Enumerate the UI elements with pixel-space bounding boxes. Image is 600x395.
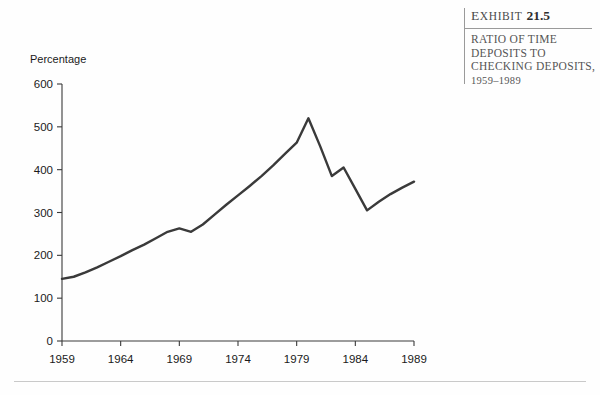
exhibit-title: RATIO OF TIME DEPOSITS TO CHECKING DEPOS… bbox=[471, 33, 595, 87]
y-axis-tick-label: 100 bbox=[34, 292, 53, 304]
x-axis-tick-label: 1959 bbox=[49, 353, 75, 365]
x-axis-tick-label: 1979 bbox=[284, 353, 310, 365]
y-axis-tick-label: 200 bbox=[34, 249, 53, 261]
x-axis-tick-label: 1969 bbox=[167, 353, 193, 365]
page-canvas: EXHIBIT21.5 RATIO OF TIME DEPOSITS TO CH… bbox=[0, 0, 600, 395]
exhibit-label-initial: E bbox=[471, 8, 480, 23]
y-axis-tick-label: 600 bbox=[34, 78, 53, 90]
x-axis-tick-label: 1964 bbox=[108, 353, 134, 365]
x-axis-tick-label: 1989 bbox=[401, 353, 427, 365]
chart-area: 0100200300400500600 19591964196919741979… bbox=[0, 0, 460, 380]
exhibit-number: 21.5 bbox=[526, 8, 550, 23]
exhibit-title-years: 1959–1989 bbox=[471, 74, 595, 88]
y-axis-tick-label: 500 bbox=[34, 121, 53, 133]
exhibit-title-line-2: DEPOSITS TO bbox=[471, 47, 595, 61]
x-axis-tick-label: 1974 bbox=[225, 353, 251, 365]
line-chart: 0100200300400500600 19591964196919741979… bbox=[0, 0, 460, 380]
y-axis-label: Percentage bbox=[30, 53, 86, 65]
exhibit-horizontal-rule bbox=[464, 28, 592, 29]
x-axis-tick-label: 1984 bbox=[343, 353, 369, 365]
exhibit-label-rest: XHIBIT bbox=[480, 10, 523, 22]
series-line bbox=[62, 118, 414, 279]
exhibit-title-line-3: CHECKING DEPOSITS, bbox=[471, 60, 595, 74]
y-axis-tick-label: 300 bbox=[34, 207, 53, 219]
y-axis-tick-label: 400 bbox=[34, 164, 53, 176]
exhibit-header: EXHIBIT21.5 bbox=[464, 8, 592, 24]
exhibit-title-line-1: RATIO OF TIME bbox=[471, 33, 595, 47]
data-series-line bbox=[62, 118, 414, 279]
y-axis: 0100200300400500600 bbox=[34, 78, 62, 347]
x-axis: 1959196419691974197919841989 bbox=[49, 341, 427, 365]
y-axis-tick-label: 0 bbox=[47, 335, 53, 347]
page-bottom-rule bbox=[14, 381, 586, 382]
exhibit-label: EXHIBIT21.5 bbox=[464, 8, 592, 24]
